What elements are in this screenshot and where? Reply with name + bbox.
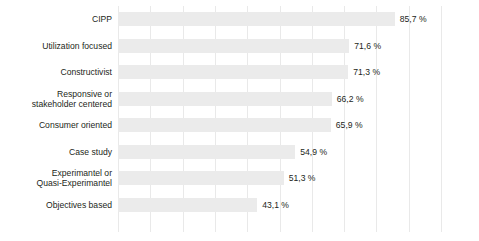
bar-row: Responsive or stakeholder centered66,2 %: [0, 86, 479, 113]
bar: [118, 39, 349, 53]
bar-value-label: 54,9 %: [295, 147, 327, 157]
category-label: Experimantel or Quasi-Experimantel: [0, 168, 112, 188]
bar-value-label: 66,2 %: [332, 94, 364, 104]
category-label: Case study: [0, 147, 112, 157]
bar: [118, 145, 295, 159]
category-label: Responsive or stakeholder centered: [0, 89, 112, 109]
bar-row: Consumer oriented65,9 %: [0, 112, 479, 139]
bar: [118, 171, 284, 185]
category-label: Consumer oriented: [0, 120, 112, 130]
bar-row: Utilization focused71,6 %: [0, 33, 479, 60]
bar-track: 65,9 %: [118, 118, 441, 132]
bar-value-label: 43,1 %: [257, 200, 289, 210]
bar-row: CIPP85,7 %: [0, 6, 479, 33]
bar-rows: CIPP85,7 %Utilization focused71,6 %Const…: [0, 0, 479, 241]
bar: [118, 65, 348, 79]
bar-track: 51,3 %: [118, 171, 441, 185]
bar-value-label: 85,7 %: [395, 14, 427, 24]
bar-track: 54,9 %: [118, 145, 441, 159]
category-label: CIPP: [0, 14, 112, 24]
bar-row: Constructivist71,3 %: [0, 59, 479, 86]
bar-value-label: 71,6 %: [349, 41, 381, 51]
bar-value-label: 71,3 %: [348, 67, 380, 77]
bar-track: 43,1 %: [118, 198, 441, 212]
bar: [118, 118, 331, 132]
category-label: Utilization focused: [0, 41, 112, 51]
bar-row: Objectives based43,1 %: [0, 192, 479, 219]
bar: [118, 12, 395, 26]
bar-row: Experimantel or Quasi-Experimantel51,3 %: [0, 165, 479, 192]
bar-track: 66,2 %: [118, 92, 441, 106]
bar-row: Case study54,9 %: [0, 139, 479, 166]
category-label: Objectives based: [0, 200, 112, 210]
bar-track: 71,3 %: [118, 65, 441, 79]
bar: [118, 92, 332, 106]
category-label: Constructivist: [0, 67, 112, 77]
bar-value-label: 51,3 %: [284, 173, 316, 183]
bar: [118, 198, 257, 212]
bar-track: 71,6 %: [118, 39, 441, 53]
bar-value-label: 65,9 %: [331, 120, 363, 130]
bar-track: 85,7 %: [118, 12, 441, 26]
bar-chart: CIPP85,7 %Utilization focused71,6 %Const…: [0, 0, 479, 241]
